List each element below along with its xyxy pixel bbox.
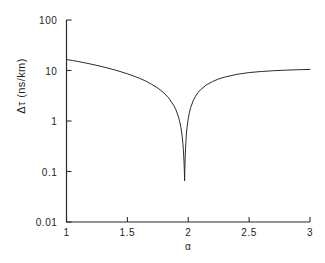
y-tick-label: 0.01 [0,217,58,228]
x-tick-label: 2 [185,227,191,238]
x-tick-label: 3 [307,227,313,238]
x-axis-ticks [67,217,311,222]
y-tick-label: 1 [0,116,58,127]
y-axis-title: Δτ (ns/km) [15,21,27,151]
x-tick-label: 2.5 [241,227,257,238]
data-series-curve [67,60,311,181]
figure-container: 0.010.1110100 11.522.53 Δτ (ns/km) α [0,0,325,263]
x-axis-title: α [185,241,191,252]
y-axis-ticks [67,20,72,222]
x-tick-label: 1.5 [120,227,136,238]
y-tick-label: 0.1 [0,166,58,177]
y-tick-label: 10 [0,65,58,76]
x-tick-label: 1 [63,227,69,238]
y-tick-label: 100 [0,15,58,26]
